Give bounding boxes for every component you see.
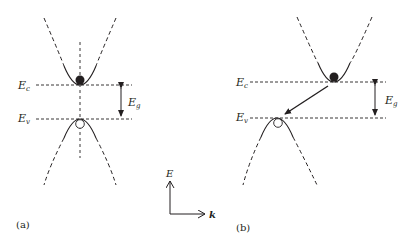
conduction-band-b <box>297 17 372 82</box>
band-diagram: Ec Ev Eg (a) E k <box>0 0 415 242</box>
ec-label-a: Ec <box>17 79 30 93</box>
k-axis-label: k <box>209 209 216 220</box>
eg-label-b: Eg <box>384 94 398 108</box>
hole-icon <box>274 119 283 128</box>
eg-label-a: Eg <box>127 96 141 110</box>
energy-axis-label: E <box>165 168 174 179</box>
panel-a: Ec Ev Eg (a) <box>16 18 141 230</box>
valence-band-b <box>243 118 317 185</box>
ec-label-b: Ec <box>235 76 248 90</box>
panel-label-a: (a) <box>16 219 30 230</box>
ev-label-b: Ev <box>235 111 248 125</box>
hole-icon <box>76 120 85 129</box>
transition-arrow <box>285 86 328 114</box>
axes: E k <box>165 168 216 220</box>
electron-icon <box>330 73 339 82</box>
electron-icon <box>76 76 85 85</box>
ev-label-a: Ev <box>17 112 30 126</box>
panel-b: Ec Ev Eg (b) <box>235 17 398 233</box>
diagram-canvas: Ec Ev Eg (a) E k <box>0 0 415 242</box>
panel-label-b: (b) <box>236 222 250 233</box>
